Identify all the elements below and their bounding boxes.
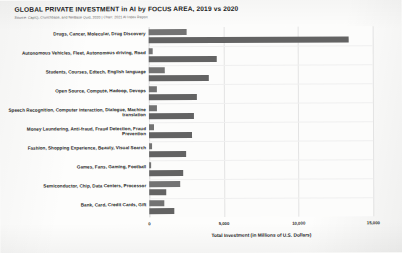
bar-2019 [149,162,151,168]
value-axis-ticks: 05,00010,00015,000 [0,0,402,1]
bar-group [149,66,373,86]
chart-title: GLOBAL PRIVATE INVESTMENT in AI by FOCUS… [15,5,239,13]
bar-group [149,161,373,181]
category-label: Semiconductor, Chip, Data Centers, Proce… [2,183,146,189]
bar-group [149,199,373,219]
bar-2020 [149,189,166,195]
bar-group [149,180,373,200]
bar-2020 [149,113,194,120]
category-label: Money Laundering, Anti-fraud, Fraud Dete… [2,126,146,138]
category-label: Autonomous Vehicles, Fleet, Autonomous d… [2,50,146,56]
bar-group [149,123,373,143]
category-label: Open Source, Compute, Hadoop, Devops [2,88,146,94]
category-label: Students, Courses, Edtech, English langu… [2,69,146,75]
category-axis-labels: Drugs, Cancer, Molecular, Drug Discovery… [0,0,402,1]
chart-subtitle: Source: CapIQ, Crunchbase, and NetBase Q… [15,15,148,20]
bar-group [149,85,373,105]
bar-2020 [149,56,217,63]
chart-page: GLOBAL PRIVATE INVESTMENT in AI by FOCUS… [0,0,402,253]
bar-2019 [149,124,154,130]
bar-2019 [149,200,164,206]
bar-group [149,47,373,67]
x-tick-0: 0 [148,221,150,226]
bar-2020 [149,151,186,158]
category-label: Bank, Card, Credit Cards, Gift [2,202,146,208]
bars-container [149,26,373,27]
bar-group [149,28,373,48]
x-tick-10000: 10,000 [292,221,305,226]
value-axis-title: Total Investment (in Millions of U.S. Do… [149,232,373,238]
category-label: Drugs, Cancer, Molecular, Drug Discovery [2,31,146,37]
bar-group [149,104,373,124]
bar-2019 [149,29,187,36]
bar-2020 [149,75,209,82]
bar-2020 [149,94,197,101]
category-label: Fashion, Shopping Experience, Beauty, Vi… [2,145,146,151]
plot-area: 2019 2020 [149,26,374,217]
x-tick-5000: 5,000 [219,221,230,226]
x-tick-15000: 15,000 [367,220,380,225]
bar-2019 [149,181,180,188]
bar-2020 [149,36,349,43]
bar-2019 [149,67,165,73]
bar-group [149,142,373,162]
category-label: Speech Recognition, Computer interaction… [2,107,146,119]
bar-2020 [149,132,192,139]
bar-2019 [149,105,157,111]
bar-2019 [149,143,152,149]
bar-2020 [149,208,174,214]
category-label: Games, Fans, Gaming, Football [2,164,146,170]
bar-2019 [149,48,153,54]
bar-2020 [149,170,183,177]
bar-2019 [149,86,157,92]
